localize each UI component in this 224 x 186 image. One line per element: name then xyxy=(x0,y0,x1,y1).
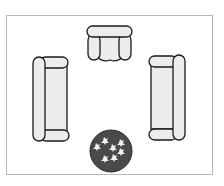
round-rug xyxy=(90,130,132,172)
floor-plan xyxy=(0,0,224,186)
armchair xyxy=(87,26,132,61)
sofa-left xyxy=(33,57,69,141)
sofa-right xyxy=(149,55,185,140)
